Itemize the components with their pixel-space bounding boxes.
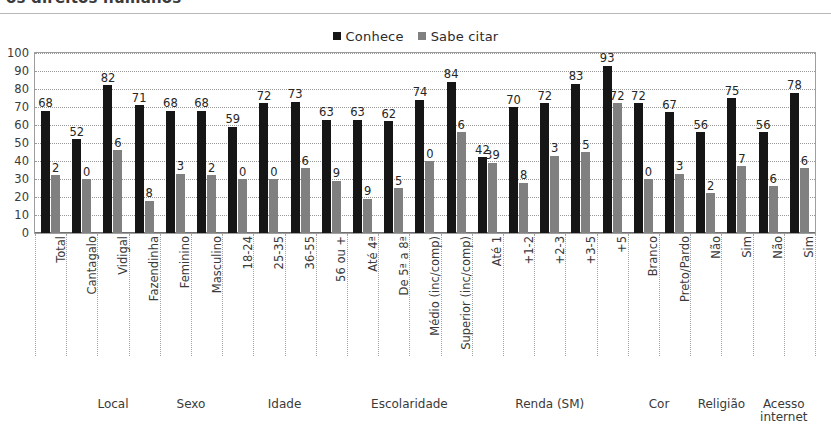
category-label-text: Total (56, 236, 68, 263)
bar-group: 683 (160, 53, 191, 233)
category-label: Sim (804, 236, 816, 258)
bar-group: 673 (659, 53, 690, 233)
bar-conhece[interactable]: 56 (696, 132, 705, 233)
bar-conhece[interactable]: 59 (228, 127, 237, 233)
legend-item-conhece[interactable]: Conhece (333, 29, 404, 44)
bar-sabe-citar[interactable]: 5 (394, 188, 403, 233)
bar-sabe-citar[interactable]: 39 (488, 163, 497, 233)
bar-conhece[interactable]: 68 (197, 111, 206, 233)
bar-conhece[interactable]: 83 (571, 84, 580, 233)
bar-value-label: 9 (333, 168, 340, 180)
bar-sabe-citar[interactable]: 6 (301, 168, 310, 233)
bar-sabe-citar[interactable]: 9 (363, 199, 372, 233)
category-label: Fazendinha (149, 236, 161, 301)
bar-conhece[interactable]: 52 (72, 139, 81, 233)
bar-conhece[interactable]: 72 (540, 103, 549, 233)
bar-group: 682 (35, 53, 66, 233)
category-label: Até 1 (492, 236, 504, 266)
category-label: Masculino (212, 236, 224, 293)
bar-sabe-citar[interactable]: 0 (238, 179, 247, 233)
title-text: os direitos humanos (6, 0, 182, 7)
legend-label: Conhece (346, 29, 404, 44)
bar-value-label: 2 (707, 181, 714, 193)
bar-group: 846 (441, 53, 472, 233)
bar-value-label: 9 (364, 186, 371, 198)
bar-sabe-citar[interactable]: 8 (519, 183, 528, 233)
bar-value-label: 59 (225, 114, 240, 126)
bar-conhece[interactable]: 68 (166, 111, 175, 233)
bar-sabe-citar[interactable]: 3 (176, 174, 185, 233)
bar-sabe-citar[interactable]: 2 (51, 175, 60, 233)
bar-sabe-citar[interactable]: 2 (207, 175, 216, 233)
bar-value-label: 0 (645, 167, 652, 179)
bar-sabe-citar[interactable]: 9 (332, 181, 341, 233)
bar-value-label: 72 (257, 91, 272, 103)
category-label-text: Vidigal (118, 236, 130, 275)
category-label-text: Não (711, 236, 723, 259)
y-axis-tick: 30 (14, 172, 29, 186)
bar-value-label: 62 (381, 109, 396, 121)
bar-group: 625 (378, 53, 409, 233)
bar-sabe-citar[interactable]: 0 (425, 161, 434, 233)
bar-sabe-citar[interactable]: 6 (769, 186, 778, 233)
bar-sabe-citar[interactable]: 6 (113, 150, 122, 233)
category-label-text: Masculino (212, 236, 224, 293)
bar-sabe-citar[interactable]: 5 (581, 152, 590, 233)
bar-sabe-citar[interactable]: 7 (737, 166, 746, 233)
bar-sabe-citar[interactable]: 3 (550, 156, 559, 233)
bar-sabe-citar[interactable]: 6 (800, 168, 809, 233)
bar-conhece[interactable]: 63 (322, 120, 331, 233)
bar-conhece[interactable]: 82 (103, 85, 112, 233)
bar-conhece[interactable]: 42 (478, 157, 487, 233)
bar-sabe-citar[interactable]: 72 (613, 103, 622, 233)
bar-value-label: 6 (458, 120, 465, 132)
bar-value-label: 72 (610, 91, 625, 103)
bar-sabe-citar[interactable]: 6 (457, 132, 466, 233)
bar-conhece[interactable]: 62 (384, 121, 393, 233)
category-label: Não (711, 236, 723, 259)
bar-conhece[interactable]: 84 (447, 82, 456, 233)
bar-sabe-citar[interactable]: 0 (644, 179, 653, 233)
bar-conhece[interactable]: 70 (509, 107, 518, 233)
bar-value-label: 78 (787, 80, 802, 92)
bar-conhece[interactable]: 71 (135, 105, 144, 233)
category-label: 25-35 (274, 236, 286, 269)
bar-conhece[interactable]: 68 (41, 111, 50, 233)
bar-group: 723 (534, 53, 565, 233)
bar-conhece[interactable]: 73 (291, 102, 300, 233)
bar-value-label: 7 (738, 154, 745, 166)
bar-group: 562 (690, 53, 721, 233)
bar-conhece[interactable]: 63 (353, 120, 362, 233)
bar-group: 757 (721, 53, 752, 233)
group-label: Cor (628, 398, 690, 411)
category-label: 36-55 (305, 236, 317, 269)
bar-value-label: 52 (69, 127, 84, 139)
bar-sabe-citar[interactable]: 2 (706, 193, 715, 233)
bar-sabe-citar[interactable]: 8 (145, 201, 154, 233)
bar-value-label: 67 (662, 100, 677, 112)
bar-conhece[interactable]: 72 (634, 103, 643, 233)
bar-group: 720 (253, 53, 284, 233)
bar-conhece[interactable]: 56 (759, 132, 768, 233)
bar-group: 708 (503, 53, 534, 233)
bar-conhece[interactable]: 75 (727, 98, 736, 233)
chart-figure: os direitos humanos ConheceSabe citar 01… (0, 0, 831, 440)
bar-conhece[interactable]: 72 (259, 103, 268, 233)
y-axis: 0102030405060708090100 (0, 52, 32, 234)
bar-value-label: 6 (801, 156, 808, 168)
bar-conhece[interactable]: 67 (665, 112, 674, 233)
bar-value-label: 83 (569, 71, 584, 83)
category-label: De 5ª a 8ª (399, 236, 411, 295)
bar-conhece[interactable]: 74 (415, 100, 424, 233)
bar-sabe-citar[interactable]: 0 (269, 179, 278, 233)
bar-value-label: 63 (319, 107, 334, 119)
category-label-text: Sim (742, 236, 754, 258)
bar-value-label: 5 (582, 140, 589, 152)
bar-sabe-citar[interactable]: 3 (675, 174, 684, 233)
bar-group: 590 (222, 53, 253, 233)
bar-sabe-citar[interactable]: 0 (82, 179, 91, 233)
legend-item-sabe-citar[interactable]: Sabe citar (418, 29, 499, 44)
bar-conhece[interactable]: 78 (790, 93, 799, 233)
chart-legend: ConheceSabe citar (0, 26, 831, 46)
category-label-text: Médio (inc/comp) (430, 236, 442, 336)
